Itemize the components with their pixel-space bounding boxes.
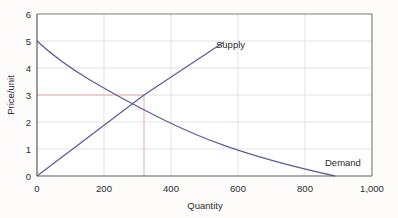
demand-series-label: Demand bbox=[325, 157, 361, 168]
chart-canvas: 6 5 4 3 2 1 0 0 200 400 600 800 1,000 Pr… bbox=[0, 0, 398, 218]
y-tick-4: 4 bbox=[26, 63, 31, 74]
x-tick-400: 400 bbox=[163, 183, 179, 194]
x-tick-800: 800 bbox=[297, 183, 313, 194]
x-tick-200: 200 bbox=[96, 183, 112, 194]
y-tick-0: 0 bbox=[26, 171, 31, 182]
y-tick-3: 3 bbox=[26, 90, 31, 101]
x-tick-1000: 1,000 bbox=[360, 183, 384, 194]
supply-demand-chart: 6 5 4 3 2 1 0 0 200 400 600 800 1,000 Pr… bbox=[0, 0, 398, 218]
supply-series-label: Supply bbox=[216, 39, 245, 50]
y-tick-6: 6 bbox=[26, 9, 31, 20]
y-tick-2: 2 bbox=[26, 117, 31, 128]
x-axis-title: Quantity bbox=[187, 200, 223, 211]
y-tick-5: 5 bbox=[26, 36, 31, 47]
x-tick-600: 600 bbox=[230, 183, 246, 194]
y-tick-1: 1 bbox=[26, 144, 31, 155]
x-tick-0: 0 bbox=[34, 183, 39, 194]
y-axis-title: Price/unit bbox=[5, 75, 16, 115]
